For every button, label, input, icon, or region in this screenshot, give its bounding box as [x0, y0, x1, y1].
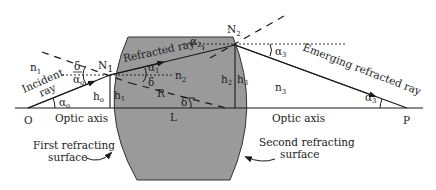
optic-axis-label-right: Optic axis [272, 112, 325, 124]
optic-axis-label-left: Optic axis [55, 112, 108, 124]
angle-delta-left-label: δ [74, 60, 80, 72]
point-o-label: O [24, 114, 33, 126]
medium-n3-label: n3 [275, 81, 286, 96]
angle-alpha0-axis-label: αo [59, 96, 70, 110]
height-h0-label: ho [93, 90, 104, 104]
thickness-label: L [170, 111, 177, 123]
second-surface-label: Second refracting [259, 136, 355, 148]
angle-delta-axis-label: δ [181, 96, 187, 108]
second-surface-pointer [246, 157, 275, 161]
angle-arc-alpha3-top [270, 44, 272, 56]
thick-lens-diagram: O P N1 N2 n1 n2 n3 ho h1 h2 h3 αo αo δ α… [0, 0, 436, 190]
radius-label: R [157, 87, 166, 99]
angle-delta-inner-label: δ [148, 76, 154, 88]
angle-arc-alpha0-axis [53, 98, 55, 108]
point-n1-label: N1 [98, 59, 113, 74]
point-n2-label: N2 [227, 23, 241, 38]
first-surface-label: First refracting [33, 139, 115, 151]
first-surface-pointer [86, 153, 111, 160]
second-surface-label-2: surface [280, 148, 319, 160]
angle-alpha3-axis-label: α3 [365, 91, 377, 105]
angle-alpha3-top-label: α3 [275, 45, 287, 59]
medium-n1-label: n1 [30, 61, 41, 76]
point-p-label: P [403, 114, 410, 126]
height-h3-label: h3 [237, 73, 248, 87]
first-surface-label-2: surface [48, 151, 87, 163]
angle-arc-alpha3-axis [380, 99, 382, 108]
emerging-ray-label: Emerging refracted ray [301, 41, 423, 97]
